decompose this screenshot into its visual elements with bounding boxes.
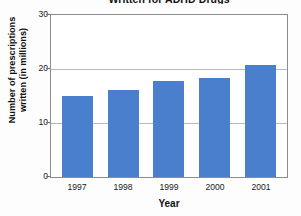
y-tick-label-10: 10 <box>24 118 48 127</box>
bar-2000[interactable] <box>199 78 230 177</box>
y-tick-label-30: 30 <box>24 10 48 19</box>
x-tick-label-1998: 1998 <box>100 182 146 194</box>
bar-2001[interactable] <box>245 65 276 177</box>
x-axis-label: Year <box>50 198 288 209</box>
bar-slot <box>192 15 238 177</box>
bar-slot <box>101 15 147 177</box>
x-tick-label-2001: 2001 <box>238 182 284 194</box>
x-tick-label-1999: 1999 <box>146 182 192 194</box>
bar-slot <box>146 15 192 177</box>
x-axis-tick-labels: 19971998199920002001 <box>50 182 288 194</box>
y-axis-label-line1: Number of prescriptions <box>7 17 18 124</box>
y-tick-label-0: 0 <box>24 172 48 181</box>
bar-1997[interactable] <box>62 96 93 177</box>
bar-1998[interactable] <box>108 90 139 177</box>
bar-slot <box>237 15 283 177</box>
chart-title: Written for ADHD Drugs <box>50 0 288 4</box>
x-tick-label-2000: 2000 <box>192 182 238 194</box>
plot-area <box>50 14 288 178</box>
bar-series <box>51 15 287 177</box>
bar-chart-figure: Written for ADHD Drugs Number of prescri… <box>0 0 301 216</box>
bar-slot <box>55 15 101 177</box>
bar-1999[interactable] <box>153 81 184 177</box>
x-tick-label-1997: 1997 <box>54 182 100 194</box>
y-tick-label-20: 20 <box>24 64 48 73</box>
